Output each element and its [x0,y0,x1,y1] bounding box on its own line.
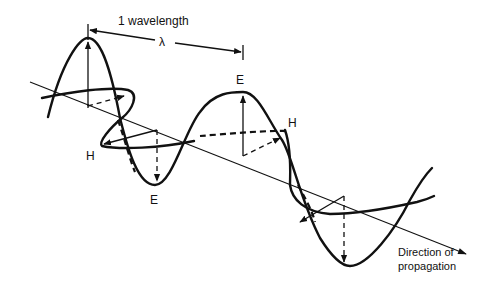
h-vector-2 [104,130,157,144]
h-vector-1 [88,96,124,106]
h-label-left: H [86,149,95,163]
e-label-bottom: E [150,193,158,207]
span-arrow-left [90,30,155,40]
h-vector-3 [243,138,280,156]
propagation-axis [30,82,466,254]
magnetic-field-wave-3 [285,130,434,214]
direction-label-line2: propagation [398,260,456,272]
lambda-symbol: λ [159,35,165,49]
em-wave-diagram: 1 wavelength λ E H H E Direction of prop… [0,0,480,286]
direction-label-line1: Direction of [398,246,455,258]
h-label-right: H [288,116,297,130]
span-arrow-right [175,43,241,52]
wavelength-span [88,24,243,60]
wavelength-label: 1 wavelength [118,14,189,28]
e-label-top: E [236,73,244,87]
